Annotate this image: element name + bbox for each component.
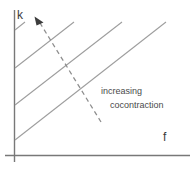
stiffness-line-4 xyxy=(15,22,25,30)
annotation-line-cocontraction: cocontraction xyxy=(110,101,164,110)
increasing-cocontraction-arrow xyxy=(35,17,102,123)
x-axis-label: f xyxy=(163,131,166,143)
arrow-head-icon xyxy=(35,17,44,26)
y-axis-label: k xyxy=(17,9,23,21)
diagram-canvas: k f increasing cocontraction xyxy=(0,0,195,169)
stiffness-line-1 xyxy=(15,22,166,140)
annotation-line-increasing: increasing xyxy=(101,87,142,96)
parallel-lines-group xyxy=(15,22,166,140)
stiffness-line-3 xyxy=(15,22,74,68)
dashed-arrow-shaft xyxy=(40,23,101,122)
